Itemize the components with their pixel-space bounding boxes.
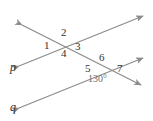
angle-number-1: 1 — [44, 40, 50, 51]
line-transversal — [22, 25, 141, 85]
line-q — [19, 58, 143, 108]
line-label-p: p — [10, 61, 16, 73]
angle-number-7: 7 — [117, 63, 123, 74]
line-label-q: q — [10, 101, 16, 113]
angle-number-2: 2 — [61, 27, 67, 38]
geometry-figure: p q 1 2 3 4 5 6 7 130° — [0, 0, 153, 121]
angle-number-6: 6 — [99, 52, 105, 63]
figure-canvas — [0, 0, 153, 121]
angle-number-3: 3 — [75, 41, 81, 52]
line-p — [19, 16, 143, 66]
angle-number-4: 4 — [61, 48, 67, 59]
angle-measure-130: 130° — [88, 74, 107, 84]
